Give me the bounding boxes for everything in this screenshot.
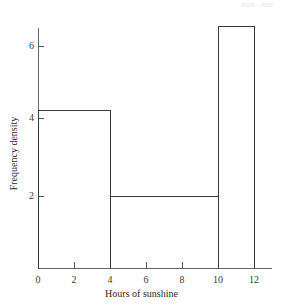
y-tick-label-4: 4 <box>24 113 34 123</box>
x-tick-label-2: 2 <box>72 275 77 285</box>
histogram-svg <box>0 0 283 305</box>
y-tick-label-6: 6 <box>24 41 34 51</box>
x-tick-label-4: 4 <box>108 275 113 285</box>
x-tick-label-10: 10 <box>213 275 223 285</box>
plot-area: 6 4 2 0 2 4 6 8 10 12 Hours of sunshine … <box>0 0 283 305</box>
x-tick-label-12: 12 <box>249 275 259 285</box>
histogram-bar-10-12 <box>219 27 255 269</box>
x-axis-ticks <box>39 262 255 269</box>
x-axis-title: Hours of sunshine <box>0 288 283 299</box>
histogram-bar-4-10 <box>111 197 219 269</box>
x-tick-label-8: 8 <box>180 275 185 285</box>
y-tick-label-2: 2 <box>24 191 34 201</box>
histogram-bar-0-4 <box>39 110 111 268</box>
histogram-screenshot: 6 4 2 0 2 4 6 8 10 12 Hours of sunshine … <box>0 0 283 305</box>
x-tick-label-6: 6 <box>144 275 149 285</box>
y-axis-title: Frequency density <box>8 89 19 219</box>
histogram-bars <box>39 27 255 269</box>
x-tick-label-0: 0 <box>36 275 41 285</box>
